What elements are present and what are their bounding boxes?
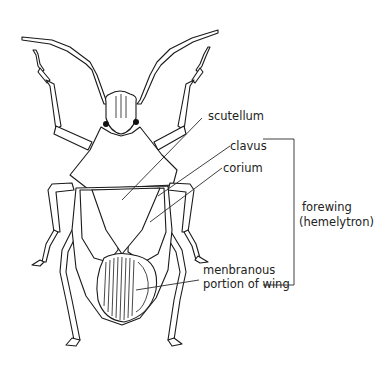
head [103,91,139,134]
label-clavus: clavus [230,139,267,153]
label-corium: corium [223,161,263,175]
eye-right [133,119,139,125]
label-membranous: menbranous [203,263,275,277]
eye-left [103,121,109,127]
label-portion-of-wing: portion of wing [203,277,290,291]
label-forewing: forewing [302,200,352,214]
labels: scutellum clavus corium forewing (hemely… [203,109,374,291]
label-scutellum: scutellum [208,109,264,123]
label-hemelytron: (hemelytron) [299,215,374,229]
pronotum [70,127,177,189]
insect-anatomy-diagram: scutellum clavus corium forewing (hemely… [0,0,390,365]
